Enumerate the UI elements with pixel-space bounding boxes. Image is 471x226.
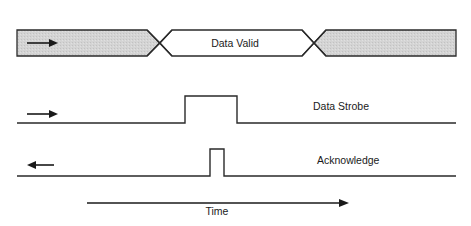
arrow-left-icon [27, 161, 54, 169]
arrow-right-icon [27, 110, 58, 118]
time-arrowhead-icon [339, 199, 349, 207]
data-bus-row: Data Valid [17, 30, 456, 56]
acknowledge-waveform [17, 149, 456, 176]
data-strobe-waveform [17, 96, 456, 123]
data-strobe-label: Data Strobe [313, 100, 369, 112]
data-strobe-row: Data Strobe [17, 96, 456, 123]
acknowledge-row: Acknowledge [17, 149, 456, 176]
time-axis: Time [87, 199, 349, 217]
time-axis-label: Time [206, 205, 229, 217]
bus-invalid-region-right [314, 30, 456, 56]
acknowledge-label: Acknowledge [317, 154, 380, 166]
bus-label: Data Valid [211, 37, 259, 49]
timing-diagram: Data Valid Data Strobe Acknowledge Time [0, 0, 471, 226]
